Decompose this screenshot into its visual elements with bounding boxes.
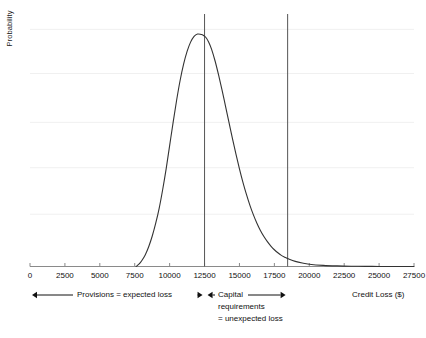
- gridlines-group: [30, 29, 414, 214]
- x-axis-title: Credit Loss ($): [352, 290, 404, 299]
- distribution-curve: [136, 34, 414, 267]
- capital-arrow-right: [281, 292, 286, 298]
- annotation-capital-label-line2: requirements: [218, 302, 265, 311]
- x-tick-label-4: 10000: [158, 271, 180, 280]
- annotation-capital-label-line3: = unexpected loss: [218, 314, 283, 323]
- annotation-provisions-label: Provisions = expected loss: [77, 290, 172, 299]
- x-tick-label-3: 7500: [126, 271, 144, 280]
- x-tick-label-9: 22500: [333, 271, 355, 280]
- x-tick-label-10: 25000: [368, 271, 390, 280]
- x-tick-label-8: 20000: [298, 271, 320, 280]
- x-tick-label-2: 5000: [91, 271, 109, 280]
- vertical-reference-lines-group: [205, 14, 288, 267]
- x-tick-label-7: 17500: [263, 271, 285, 280]
- credit-loss-distribution-figure: Probability 0250050007500100001250015000…: [0, 0, 426, 338]
- provisions-arrow-right: [198, 292, 203, 298]
- plot-area: [0, 0, 426, 338]
- provisions-arrow-left: [32, 292, 37, 298]
- annotation-capital-label-line1: Capital: [218, 290, 243, 299]
- capital-arrow-left: [208, 292, 213, 298]
- x-tick-label-11: 27500: [403, 271, 425, 280]
- x-tick-label-5: 12500: [193, 271, 215, 280]
- x-tick-label-6: 15000: [228, 271, 250, 280]
- x-tick-label-0: 0: [28, 271, 32, 280]
- x-tick-label-1: 2500: [56, 271, 74, 280]
